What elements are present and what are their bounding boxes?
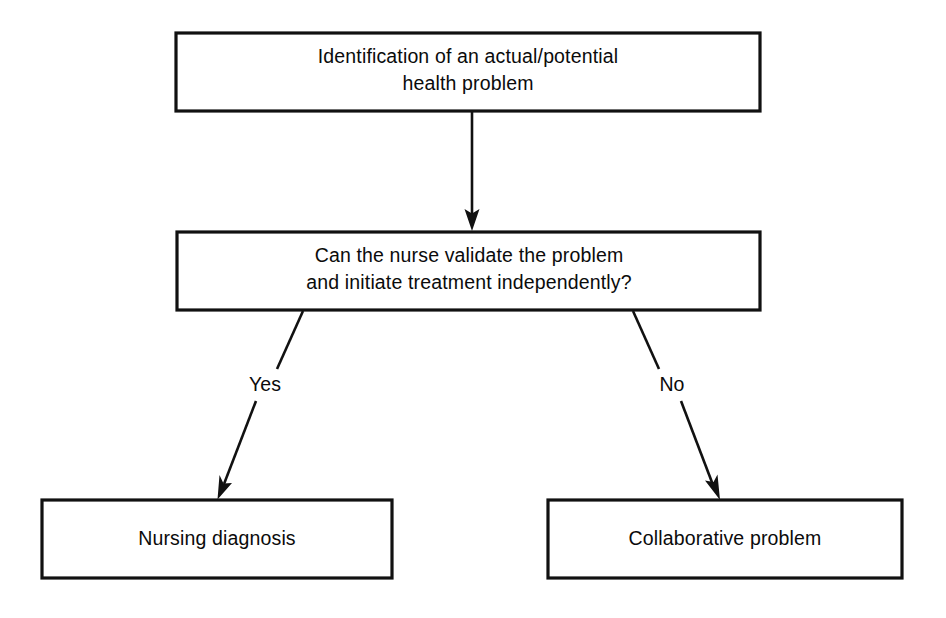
connector-line-no-upper <box>633 311 659 369</box>
node-collaborative-problem[interactable]: Collaborative problem <box>548 500 902 578</box>
node-nursing-diagnosis[interactable]: Nursing diagnosis <box>42 500 392 578</box>
node-label-nurse-validation-question-line1: Can the nurse validate the problem <box>315 244 624 266</box>
connector-question-to-collaborative-problem: No <box>633 311 720 500</box>
node-label-collaborative-problem: Collaborative problem <box>629 527 822 549</box>
connector-line-yes-upper <box>277 311 303 369</box>
node-label-nurse-validation-question-line2: and initiate treatment independently? <box>306 271 631 293</box>
node-label-problem-identification-line2: health problem <box>402 72 533 94</box>
connector-line-no-lower <box>681 401 713 485</box>
node-label-nursing-diagnosis: Nursing diagnosis <box>138 527 296 549</box>
node-nurse-validation-question[interactable]: Can the nurse validate the problem and i… <box>177 232 760 310</box>
arrow-head-no-icon <box>705 475 720 501</box>
branch-label-yes: Yes <box>249 373 281 395</box>
node-problem-identification[interactable]: Identification of an actual/potential he… <box>176 33 760 111</box>
connector-line-yes-lower <box>224 401 256 484</box>
flowchart-canvas: Identification of an actual/potential he… <box>0 0 946 618</box>
connector-identification-to-question <box>465 111 480 231</box>
connector-question-to-nursing-diagnosis: Yes <box>218 311 304 500</box>
node-label-problem-identification-line1: Identification of an actual/potential <box>318 45 618 67</box>
branch-label-no: No <box>660 373 685 395</box>
